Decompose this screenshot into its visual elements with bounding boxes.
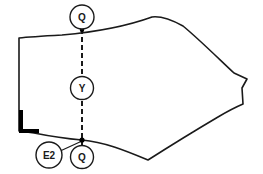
balloon-label: E2	[43, 150, 56, 161]
pattern-drawing-canvas: Q Y E2 Q	[0, 0, 263, 174]
pattern-drawing-svg: Q Y E2 Q	[0, 0, 263, 174]
balloon-label: Y	[79, 83, 86, 94]
balloon-q-top[interactable]: Q	[70, 5, 94, 29]
balloon-label: Q	[78, 12, 86, 23]
bottom-endpoint-marker	[79, 137, 84, 142]
panel-outline	[19, 17, 247, 160]
balloon-y-middle[interactable]: Y	[71, 77, 94, 100]
balloon-label: Q	[78, 152, 86, 163]
balloon-e2-left[interactable]: E2	[36, 142, 62, 168]
balloon-q-bottom[interactable]: Q	[71, 146, 94, 169]
